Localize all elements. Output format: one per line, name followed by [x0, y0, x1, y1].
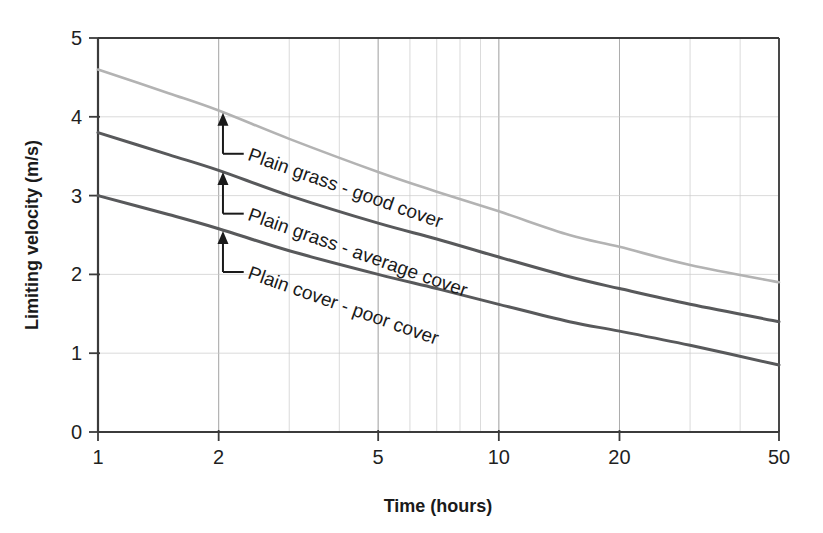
- x-tick-label: 50: [768, 446, 790, 468]
- limiting-velocity-chart: Plain grass - good coverPlain grass - av…: [0, 0, 823, 533]
- x-axis-title: Time (hours): [384, 496, 493, 516]
- y-tick-label: 1: [71, 342, 82, 364]
- y-tick-label: 5: [71, 27, 82, 49]
- chart-figure: Plain grass - good coverPlain grass - av…: [0, 0, 823, 533]
- y-axis-title: Limiting velocity (m/s): [22, 140, 42, 330]
- y-tick-label: 0: [71, 421, 82, 443]
- y-tick-label: 2: [71, 263, 82, 285]
- x-tick-label: 1: [92, 446, 103, 468]
- x-tick-label: 2: [213, 446, 224, 468]
- x-tick-label: 10: [488, 446, 510, 468]
- x-tick-label: 20: [608, 446, 630, 468]
- y-tick-label: 4: [71, 106, 82, 128]
- y-tick-label: 3: [71, 185, 82, 207]
- x-tick-label: 5: [373, 446, 384, 468]
